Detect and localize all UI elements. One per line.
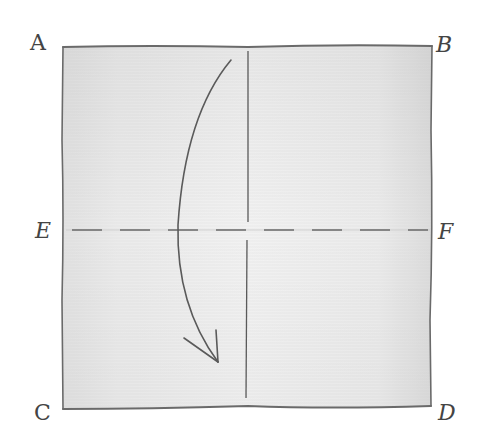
corner-label-b: B (436, 34, 452, 56)
corner-label-c: C (34, 402, 51, 424)
midpoint-label-e: E (35, 220, 51, 242)
paper-square (62, 45, 432, 409)
edge-ac (62, 47, 63, 409)
origami-diagram: A B C D E F (0, 0, 480, 445)
corner-label-a: A (30, 32, 46, 54)
diagram-svg (0, 0, 480, 445)
midpoint-label-f: F (438, 221, 453, 243)
corner-label-d: D (438, 402, 456, 424)
